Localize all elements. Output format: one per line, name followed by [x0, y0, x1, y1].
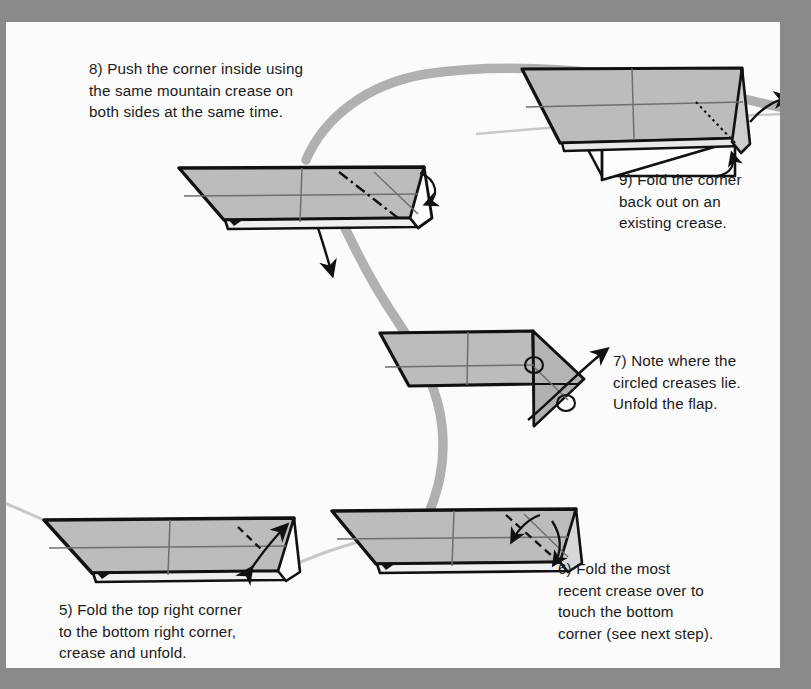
caption-step-5: 5) Fold the top right corner to the bott…: [59, 599, 309, 664]
figure-step-6: [332, 509, 582, 573]
figure-step-5: [44, 518, 300, 582]
step8-down-arrow: [318, 228, 332, 274]
step5-edge-band: [93, 571, 284, 582]
caption-step-7: 7) Note where the circled creases lie. U…: [613, 350, 773, 415]
caption-step-9: 9) Fold the corner back out on an existi…: [619, 169, 769, 234]
step7-crease-vertical: [467, 332, 468, 385]
step8-edge-band: [225, 218, 416, 229]
figure-step-7: [380, 331, 606, 426]
figure-step-9: [522, 68, 780, 180]
step6-edge-band: [377, 562, 566, 573]
diagram-page: 8) Push the corner inside using the same…: [6, 22, 780, 668]
caption-step-8: 8) Push the corner inside using the same…: [89, 58, 344, 123]
caption-step-6: 6) Fold the most recent crease over to t…: [558, 558, 738, 644]
figure-step-8: [179, 167, 435, 274]
step7-body: [380, 331, 534, 386]
